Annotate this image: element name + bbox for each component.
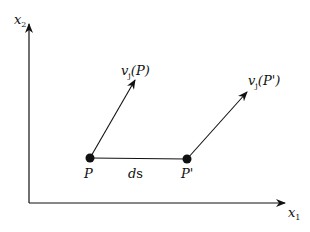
vector-vj-p xyxy=(90,80,135,158)
x1-axis-label: x1 xyxy=(288,206,300,222)
vector-label-vj-pprime: vj(P') xyxy=(248,74,280,90)
vector-label-vj-p: vj(P) xyxy=(121,64,150,80)
point-label-pprime: P' xyxy=(181,167,193,180)
x2-axis-label: x2 xyxy=(14,13,26,29)
point-pprime xyxy=(183,155,192,164)
segment-ds xyxy=(90,158,187,159)
point-p xyxy=(86,154,95,163)
vector-vj-pprime xyxy=(187,92,247,159)
segment-label-ds: ds xyxy=(128,167,143,180)
diagram-canvas xyxy=(0,0,310,232)
point-label-p: P xyxy=(84,167,93,180)
